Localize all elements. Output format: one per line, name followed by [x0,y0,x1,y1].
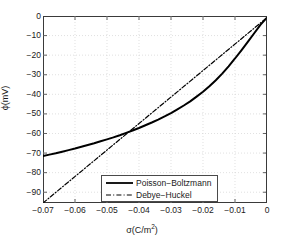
legend-dashdot-line-icon [105,190,134,200]
x-axis-ticks: −0.07−0.06−0.05−0.04−0.03−0.02−0.010 [0,0,284,243]
x-tick-label: −0.04 [128,206,150,215]
figure-canvas: 0−10−20−30−40−50−60−70−80−90 −0.07−0.06−… [0,0,284,243]
x-axis-title-close: ) [155,225,158,235]
x-tick-label: −0.01 [224,206,246,215]
legend-label-poisson-boltzmann: Poisson−Boltzmann [136,178,211,188]
legend: Poisson−Boltzmann Debye−Huckel [101,175,218,202]
y-axis-title: ϕ(mV) [0,74,10,122]
x-axis-title: σ(C/m2) [0,223,284,235]
x-tick-label: −0.02 [192,206,214,215]
x-axis-title-base: σ(C/m [126,225,151,235]
x-tick-label: −0.07 [32,206,54,215]
x-tick-label: −0.03 [160,206,182,215]
legend-item-poisson-boltzmann: Poisson−Boltzmann [105,177,211,189]
legend-item-debye-huckel: Debye−Huckel [105,189,192,201]
x-tick-label: −0.05 [96,206,118,215]
legend-solid-line-icon [105,178,134,188]
x-tick-label: −0.06 [64,206,86,215]
x-tick-label: 0 [265,206,270,215]
legend-label-debye-huckel: Debye−Huckel [136,190,192,200]
